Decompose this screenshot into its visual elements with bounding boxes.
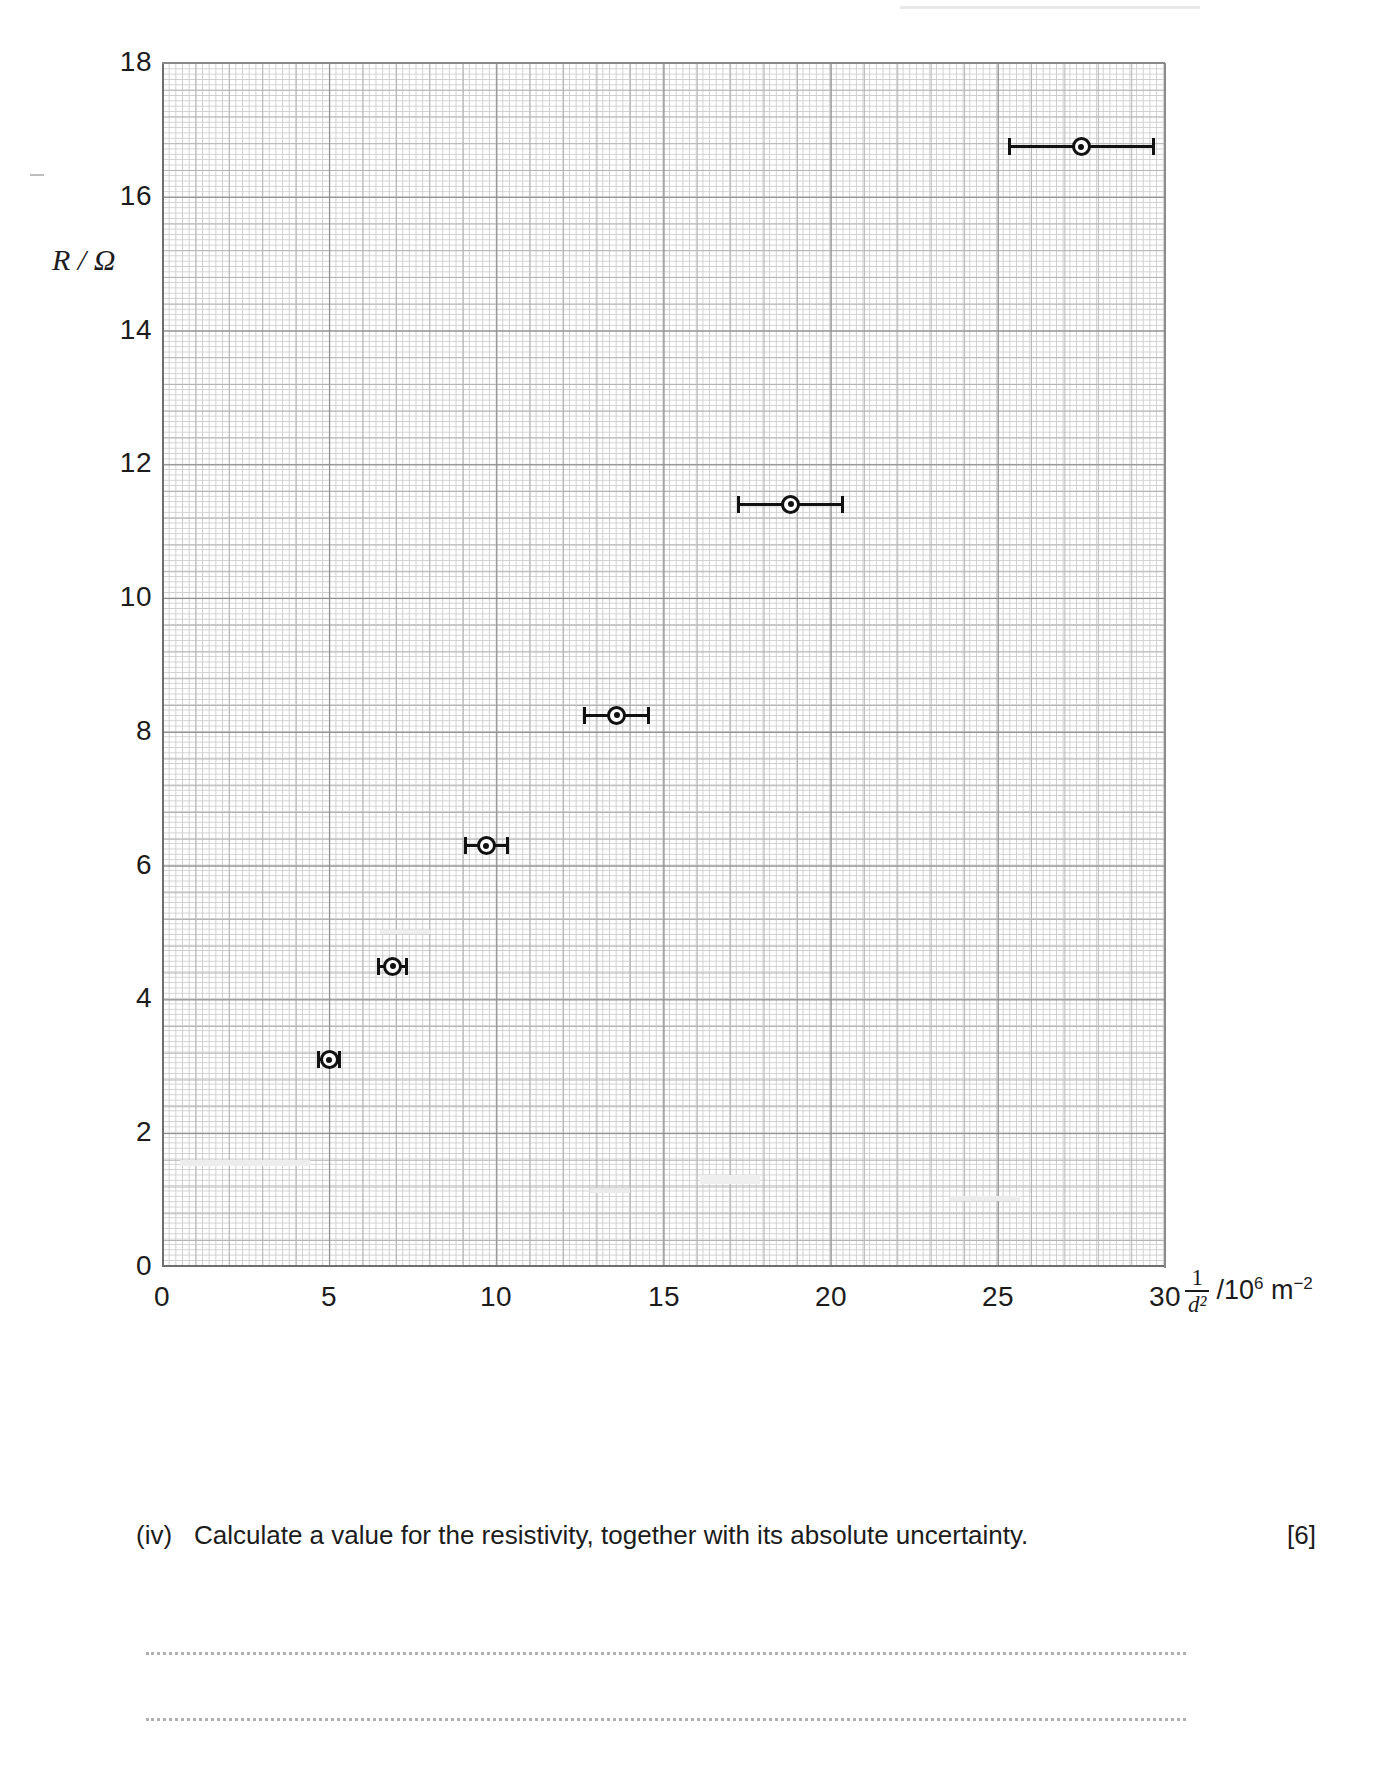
error-bar-cap-right (841, 496, 844, 513)
data-point-marker (320, 1050, 339, 1069)
graph-figure: 18 16 14 12 10 8 6 4 2 0 0 5 10 15 20 25… (0, 0, 1393, 1450)
question-number: (iv) (136, 1520, 194, 1551)
question-marks: [6] (1287, 1520, 1316, 1551)
error-bar-cap-left (377, 958, 380, 975)
error-bar-cap-right (338, 1051, 341, 1068)
answer-line[interactable] (146, 1652, 1186, 1655)
error-bar-cap-left (1008, 138, 1011, 155)
error-bar-cap-right (506, 837, 509, 854)
data-point-marker (781, 495, 800, 514)
data-point-marker (477, 836, 496, 855)
data-point-marker (383, 957, 402, 976)
question-row: (iv) Calculate a value for the resistivi… (136, 1520, 1316, 1551)
error-bar-cap-left (464, 837, 467, 854)
error-bar-cap-left (737, 496, 740, 513)
data-points-layer (0, 0, 1393, 1450)
error-bar-cap-right (1152, 138, 1155, 155)
error-bar-cap-right (405, 958, 408, 975)
error-bar-cap-right (647, 707, 650, 724)
data-point-marker (1072, 137, 1091, 156)
error-bar-cap-left (583, 707, 586, 724)
question-text: Calculate a value for the resistivity, t… (194, 1520, 1287, 1551)
data-point-marker (607, 706, 626, 725)
answer-line[interactable] (146, 1718, 1186, 1721)
